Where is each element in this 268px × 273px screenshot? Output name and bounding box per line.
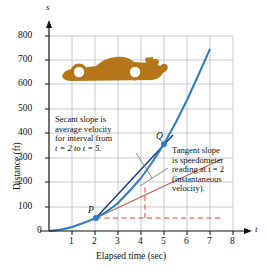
car-rear-wheel-hub-icon (130, 67, 140, 77)
point-p-marker (93, 215, 99, 221)
y-tick-label-400: 400 (18, 127, 32, 137)
y-axis-title: Distance (ft) (12, 142, 22, 190)
x-tick-label-4: 4 (138, 236, 143, 246)
secant-annotation: Secant slope is average velocity for int… (55, 115, 139, 153)
y-tick-label-700: 700 (18, 54, 32, 64)
y-tick-label-500: 500 (18, 103, 32, 113)
x-tick-label-7: 7 (207, 236, 212, 246)
distance-time-figure: s t 800 700 600 500 400 300 200 100 0 1 … (0, 0, 268, 273)
x-tick-marks (72, 231, 233, 235)
tangent-annotation: Tangent slope is speedometer reading at … (172, 146, 254, 194)
x-tick-label-3: 3 (115, 236, 120, 246)
y-tick-label-800: 800 (18, 30, 32, 40)
axis-arrow-up-icon (46, 20, 52, 28)
secant-annotation-line-4: t = 2 to t = 5. (55, 143, 102, 153)
x-tick-label-1: 1 (69, 236, 74, 246)
point-p-label: P (88, 205, 94, 215)
y-tick-label-100: 100 (18, 201, 32, 211)
x-axis-variable: t (255, 224, 258, 234)
x-tick-label-8: 8 (230, 236, 235, 246)
x-tick-label-6: 6 (184, 236, 189, 246)
axis-arrow-right-icon (244, 228, 252, 234)
tangent-annotation-line-5: velocity). (172, 184, 254, 194)
y-tick-label-0: 0 (37, 225, 42, 235)
x-tick-label-2: 2 (92, 236, 97, 246)
x-tick-label-5: 5 (161, 236, 166, 246)
y-axis-variable: s (46, 2, 50, 12)
point-q-marker (161, 141, 167, 147)
car-front-wheel-hub-icon (74, 67, 84, 77)
y-tick-label-600: 600 (18, 78, 32, 88)
x-axis-title: Elapsed time (sec) (96, 251, 166, 261)
point-q-label: Q (156, 131, 163, 141)
